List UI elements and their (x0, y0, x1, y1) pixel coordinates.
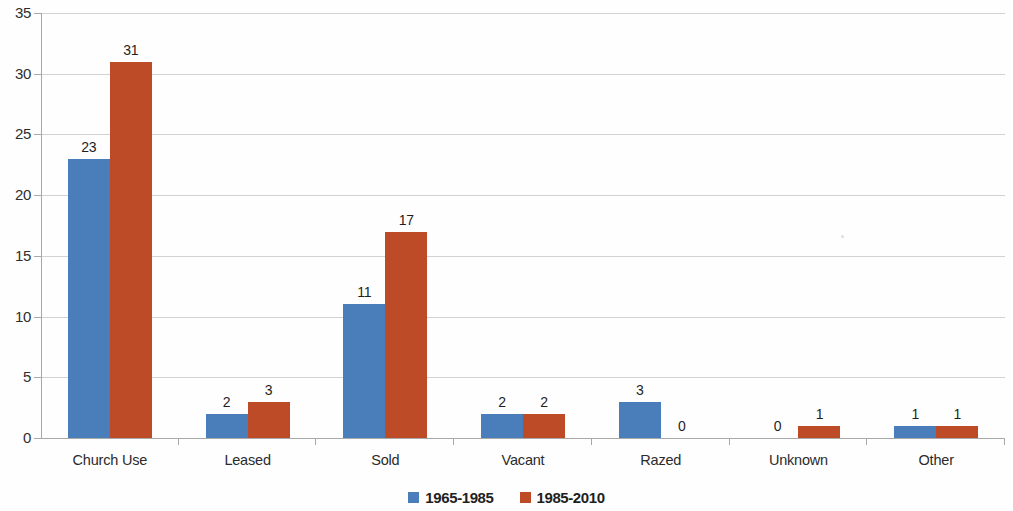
bar-value-label: 0 (774, 418, 782, 434)
y-tick-mark-35 (34, 13, 41, 14)
bar[interactable] (248, 402, 290, 438)
bar-slot: 1 (798, 13, 840, 438)
category-group: 2331 (41, 13, 179, 438)
bar-value-label: 1 (953, 406, 961, 422)
y-tick-mark-5 (34, 377, 41, 378)
legend-entry[interactable]: 1965-1985 (408, 489, 493, 506)
x-axis-label-6: Other (867, 452, 1005, 476)
legend-entry[interactable]: 1985-2010 (520, 489, 605, 506)
bar-slot: 23 (68, 13, 110, 438)
bar[interactable] (523, 414, 565, 438)
bars-holder: 23 (179, 13, 317, 438)
bar-value-label: 2 (498, 394, 506, 410)
bars-holder: 22 (454, 13, 592, 438)
x-axis-label-5: Unknown (730, 452, 868, 476)
bar-slot: 11 (343, 13, 385, 438)
y-tick-label-20: 20 (1, 186, 31, 203)
bar-slot: 0 (661, 13, 703, 438)
bar-slot: 31 (110, 13, 152, 438)
bar-slot: 2 (523, 13, 565, 438)
bar[interactable] (619, 402, 661, 438)
gridline-0 (41, 438, 1005, 439)
bar[interactable] (68, 159, 110, 438)
scan-artifact-speck (841, 235, 844, 238)
y-tick-mark-30 (34, 74, 41, 75)
y-axis-tick-labels: 05101520253035 (0, 13, 31, 438)
bar[interactable] (481, 414, 523, 438)
bar-slot: 1 (894, 13, 936, 438)
x-axis-label-1: Leased (179, 452, 317, 476)
bars-holder: 01 (730, 13, 868, 438)
bars-holder: 11 (867, 13, 1005, 438)
y-tick-label-5: 5 (1, 368, 31, 385)
x-axis-label-4: Razed (592, 452, 730, 476)
bar-value-label: 1 (911, 406, 919, 422)
x-axis-label-0: Church Use (41, 452, 179, 476)
bar-value-label: 2 (223, 394, 231, 410)
bar-slot: 2 (206, 13, 248, 438)
y-tick-label-15: 15 (1, 247, 31, 264)
bars-holder: 1117 (316, 13, 454, 438)
bar-slot: 0 (756, 13, 798, 438)
y-tick-mark-15 (34, 256, 41, 257)
y-tick-label-25: 25 (1, 125, 31, 142)
bar-slot: 2 (481, 13, 523, 438)
x-tick-mark (866, 438, 867, 445)
y-tick-mark-20 (34, 195, 41, 196)
bar-value-label: 1 (816, 406, 824, 422)
category-group: 23 (179, 13, 317, 438)
bar-slot: 17 (385, 13, 427, 438)
bars-holder: 30 (592, 13, 730, 438)
bar-value-label: 17 (399, 212, 414, 228)
category-group: 22 (454, 13, 592, 438)
legend-label: 1965-1985 (425, 489, 493, 506)
x-axis-label-2: Sold (316, 452, 454, 476)
x-axis-category-labels: Church UseLeasedSoldVacantRazedUnknownOt… (41, 452, 1005, 476)
bar[interactable] (343, 304, 385, 438)
bar-value-label: 2 (540, 394, 548, 410)
bar-value-label: 3 (636, 382, 644, 398)
y-tick-mark-25 (34, 134, 41, 135)
x-tick-mark (729, 438, 730, 445)
category-group: 11 (867, 13, 1005, 438)
bar-slot: 3 (619, 13, 661, 438)
bar-value-label: 0 (678, 418, 686, 434)
bar-slot: 3 (248, 13, 290, 438)
bar[interactable] (206, 414, 248, 438)
bar-value-label: 11 (357, 284, 371, 300)
bar-chart: 05101520253035 233123111722300111 Church… (0, 0, 1013, 511)
bars-holder: 2331 (41, 13, 179, 438)
x-tick-mark (178, 438, 179, 445)
bar-value-label: 23 (81, 139, 96, 155)
legend-swatch-icon (520, 492, 531, 503)
bar-value-label: 31 (123, 42, 138, 58)
plot-area: 233123111722300111 (41, 13, 1005, 438)
x-axis-label-3: Vacant (454, 452, 592, 476)
x-tick-mark (1004, 438, 1005, 445)
y-tick-mark-10 (34, 317, 41, 318)
x-tick-mark (453, 438, 454, 445)
category-group: 30 (592, 13, 730, 438)
bar-slot: 1 (936, 13, 978, 438)
x-tick-mark (591, 438, 592, 445)
legend-label: 1985-2010 (537, 489, 605, 506)
y-tick-label-0: 0 (1, 429, 31, 446)
bar[interactable] (936, 426, 978, 438)
bar[interactable] (110, 62, 152, 438)
y-tick-label-30: 30 (1, 65, 31, 82)
bar[interactable] (798, 426, 840, 438)
category-group: 1117 (316, 13, 454, 438)
y-tick-label-10: 10 (1, 308, 31, 325)
bar[interactable] (894, 426, 936, 438)
x-tick-mark (315, 438, 316, 445)
legend: 1965-19851985-2010 (0, 489, 1013, 506)
y-tick-mark-0 (34, 438, 41, 439)
legend-swatch-icon (408, 492, 419, 503)
y-tick-label-35: 35 (1, 4, 31, 21)
bar-value-label: 3 (265, 382, 273, 398)
category-group: 01 (730, 13, 868, 438)
bar[interactable] (385, 232, 427, 438)
